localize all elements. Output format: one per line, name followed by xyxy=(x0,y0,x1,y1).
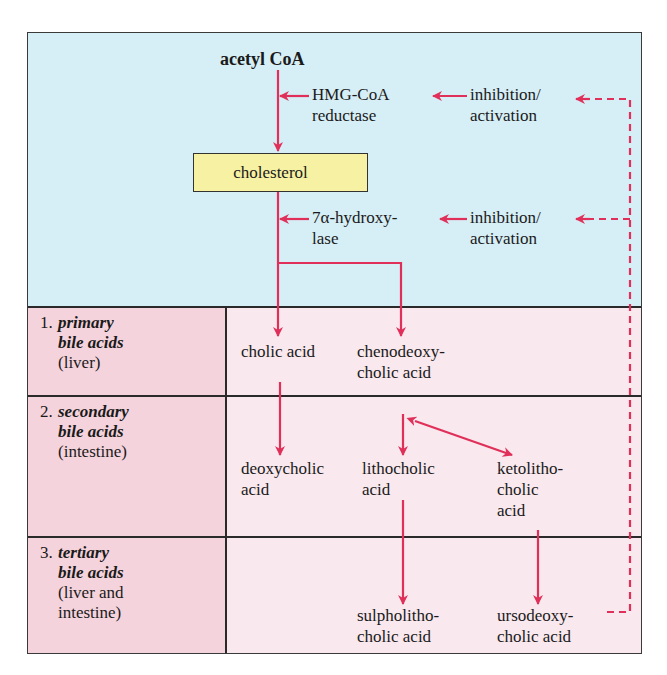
hydroxylase-label: 7α-hydroxy- xyxy=(312,208,397,227)
hmg-coa-label: HMG-CoA xyxy=(312,85,389,104)
chenodeoxycholic-acid-label-2: cholic acid xyxy=(357,363,431,382)
cholesterol-label: cholesterol xyxy=(233,163,308,183)
acetyl-coa-label: acetyl CoA xyxy=(220,50,304,69)
category-number: 3. xyxy=(40,543,58,563)
regulation-label-1: inhibition/ xyxy=(470,85,541,104)
regulation-label-2: inhibition/ xyxy=(470,208,541,227)
category-line3: (liver and xyxy=(40,583,124,603)
ursodeoxycholic-acid-label-2: cholic acid xyxy=(497,627,571,646)
category-line3: (intestine) xyxy=(40,442,129,462)
category-number: 2. xyxy=(40,402,58,422)
ketolithocholic-acid-label-2: cholic xyxy=(497,480,539,499)
hmg-coa-label-2: reductase xyxy=(312,106,376,125)
sulpholithocholic-acid-label-2: cholic acid xyxy=(357,627,431,646)
category-name: primary xyxy=(58,313,114,332)
feedback-dashed-line xyxy=(590,99,630,612)
category-line2: bile acids xyxy=(40,422,129,442)
category-line2: bile acids xyxy=(40,563,124,583)
ketolithocholic-acid-label: ketolitho- xyxy=(497,459,563,478)
category-name: secondary xyxy=(58,402,129,421)
cholic-acid-label: cholic acid xyxy=(241,342,315,361)
line-branch xyxy=(278,263,401,336)
category-number: 1. xyxy=(40,313,58,333)
deoxycholic-acid-label-2: acid xyxy=(241,480,269,499)
hydroxylase-label-2: lase xyxy=(312,229,338,248)
lithocholic-acid-label: lithocholic xyxy=(362,459,435,478)
sulpholithocholic-acid-label: sulpholitho- xyxy=(357,606,439,625)
category-secondary: 2.secondary bile acids (intestine) xyxy=(40,402,129,462)
category-primary: 1.primary bile acids (liver) xyxy=(40,313,124,373)
category-tertiary: 3.tertiary bile acids (liver and intesti… xyxy=(40,543,124,623)
lithocholic-acid-label-2: acid xyxy=(362,480,390,499)
ursodeoxycholic-acid-label: ursodeoxy- xyxy=(497,606,573,625)
category-name: tertiary xyxy=(58,543,109,562)
category-line3: (liver) xyxy=(40,353,124,373)
chenodeoxycholic-acid-label: chenodeoxy- xyxy=(357,342,445,361)
ketolithocholic-acid-label-3: acid xyxy=(497,501,525,520)
category-line4: intestine) xyxy=(40,603,124,623)
cholesterol-box: cholesterol xyxy=(193,153,368,192)
regulation-label-2b: activation xyxy=(470,229,537,248)
regulation-label-1b: activation xyxy=(470,106,537,125)
deoxycholic-acid-label: deoxycholic xyxy=(241,459,324,478)
category-line2: bile acids xyxy=(40,333,124,353)
arrow-cheno-ketolitho xyxy=(415,421,512,455)
